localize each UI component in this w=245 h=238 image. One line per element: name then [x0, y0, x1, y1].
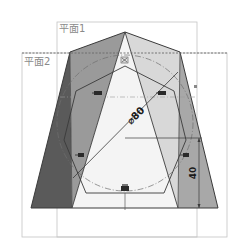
plane2-label[interactable]: 平面2 — [24, 57, 50, 67]
height-dimension[interactable]: 40 — [188, 167, 198, 180]
sketch-canvas[interactable]: ⌀80 40 — [0, 0, 245, 238]
centerline-endpoint[interactable] — [194, 85, 197, 88]
constraint-coincident-icon[interactable] — [121, 57, 128, 63]
height-dimension-label: 40 — [188, 167, 198, 180]
constraint-horizontal-icon[interactable] — [121, 184, 129, 191]
plane1-label[interactable]: 平面1 — [59, 24, 85, 34]
